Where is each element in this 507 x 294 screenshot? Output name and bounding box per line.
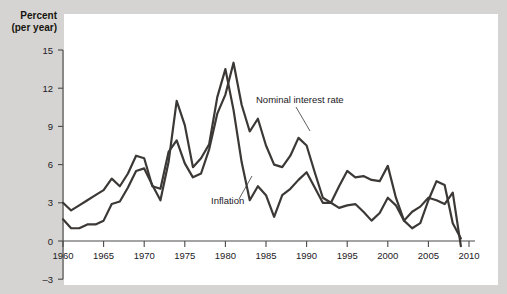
y-axis-title-line1: Percent — [20, 10, 57, 21]
x-axis-tick-label: 1985 — [255, 250, 276, 261]
x-axis-tick-label: 2010 — [458, 250, 479, 261]
x-axis-tick-label: 1995 — [337, 250, 358, 261]
x-axis-tick-label: 1980 — [215, 250, 236, 261]
x-axis-tick-label: 1965 — [93, 250, 114, 261]
y-axis-tick-label: 15 — [42, 45, 53, 56]
y-axis-tick-label: 6 — [48, 159, 53, 170]
y-axis-title-line2: (per year) — [11, 22, 57, 33]
y-axis-tick-label: 12 — [42, 83, 53, 94]
plot-area-background — [64, 14, 498, 285]
annotation-label-inflation: Inflation — [211, 195, 244, 206]
x-axis-tick-label: 2000 — [377, 250, 398, 261]
x-axis-tick-label: 1990 — [296, 250, 317, 261]
inflation-and-nominal-interest-rate-chart: Percent (per year) –303691215 1960196519… — [0, 0, 507, 294]
y-axis-tick-label: 9 — [48, 121, 53, 132]
y-axis-tick-label: –3 — [42, 274, 53, 285]
annotation-label-nominal-interest-rate: Nominal interest rate — [256, 94, 344, 105]
y-axis-tick-label: 0 — [48, 236, 53, 247]
x-axis-tick-label: 1970 — [134, 250, 155, 261]
x-axis-tick-label: 1975 — [174, 250, 195, 261]
y-axis-tick-label: 3 — [48, 197, 53, 208]
x-axis-tick-label: 2005 — [418, 250, 439, 261]
